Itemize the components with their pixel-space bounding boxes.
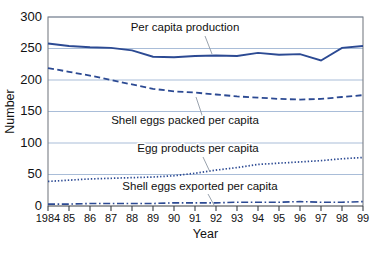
x-tick-label-1990: 90	[168, 212, 180, 224]
y-tick-label-0: 0	[35, 198, 42, 213]
series-line-egg-products-per-capita	[48, 157, 363, 181]
chart-container: 0501001502002503001984858687888990919293…	[0, 0, 379, 254]
x-tick-label-1985: 85	[63, 212, 75, 224]
x-tick-label-1987: 87	[105, 212, 117, 224]
x-axis-title: Year	[193, 227, 218, 241]
annotation-label-shell-eggs-exported-per-capita: Shell eggs exported per capita	[122, 180, 278, 192]
x-tick-label-1998: 98	[336, 212, 348, 224]
x-tick-label-1986: 86	[84, 212, 96, 224]
annotation-label-per-capita-production: Per capita production	[131, 21, 240, 33]
series-line-shell-eggs-packed-per-capita	[48, 68, 363, 100]
x-tick-label-1993: 93	[231, 212, 243, 224]
y-tick-label-250: 250	[20, 40, 42, 55]
x-tick-label-1984: 1984	[36, 212, 60, 224]
y-tick-label-300: 300	[20, 9, 42, 24]
x-tick-label-1988: 88	[126, 212, 138, 224]
annotation-leader-egg-products-per-capita	[203, 157, 210, 172]
y-tick-label-50: 50	[28, 166, 42, 181]
x-tick-label-1995: 95	[273, 212, 285, 224]
y-axis-title: Number	[3, 89, 17, 133]
y-tick-label-150: 150	[20, 103, 42, 118]
series-line-shell-eggs-exported-per-capita	[48, 202, 363, 205]
annotation-label-shell-eggs-packed-per-capita: Shell eggs packed per capita	[111, 114, 259, 126]
annotation-leader-shell-eggs-exported-per-capita	[208, 194, 214, 205]
x-tick-label-1996: 96	[294, 212, 306, 224]
x-tick-label-1999: 99	[357, 212, 369, 224]
x-tick-label-1997: 97	[315, 212, 327, 224]
annotation-label-egg-products-per-capita: Egg products per capita	[137, 142, 259, 154]
y-tick-label-100: 100	[20, 135, 42, 150]
x-tick-label-1994: 94	[252, 212, 264, 224]
annotation-leader-per-capita-production	[205, 36, 212, 54]
x-tick-label-1992: 92	[210, 212, 222, 224]
x-tick-label-1991: 91	[189, 212, 201, 224]
y-tick-label-200: 200	[20, 72, 42, 87]
x-tick-label-1989: 89	[147, 212, 159, 224]
series-line-per-capita-production	[48, 43, 363, 60]
line-chart: 0501001502002503001984858687888990919293…	[0, 0, 379, 254]
